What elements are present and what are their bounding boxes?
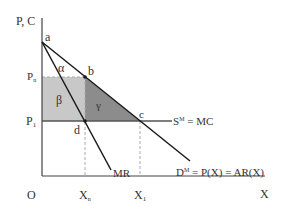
area-beta: [42, 77, 85, 121]
pn-label: Pn: [27, 70, 36, 83]
point-a-label: a: [45, 30, 51, 44]
area-gamma-label: γ: [95, 99, 101, 111]
p1-label: P1: [26, 114, 37, 129]
xn-label: Xn: [79, 188, 91, 202]
point-b-label: b: [88, 64, 94, 78]
x1-label: X1: [134, 188, 147, 203]
point-c-label: c: [139, 108, 144, 120]
monopoly-welfare-diagram: P, C X O a b c d Pn P1 Xn X1 α β γ MR SM…: [0, 0, 285, 215]
point-d-label: d: [74, 123, 80, 137]
area-beta-label: β: [56, 93, 62, 107]
supply-label: SM = MC: [173, 115, 213, 127]
x-axis-label: X: [260, 187, 269, 201]
y-axis-label: P, C: [16, 14, 35, 28]
point-d-marker: [83, 119, 87, 123]
area-alpha-label: α: [58, 61, 65, 75]
demand-label: DM = P(X) = AR(X): [176, 166, 264, 179]
mr-label: MR: [113, 167, 131, 179]
origin-label: O: [27, 188, 36, 202]
point-b-marker: [83, 75, 87, 79]
